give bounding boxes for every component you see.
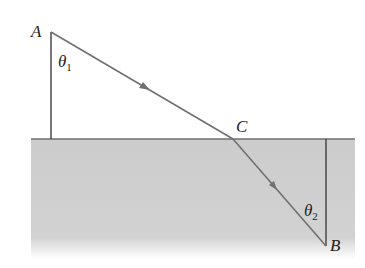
label-point-a: A xyxy=(30,22,42,41)
label-theta1: θ1 xyxy=(58,52,72,73)
label-point-c: C xyxy=(236,117,248,136)
incident-arrow-icon xyxy=(139,82,150,90)
lower-medium xyxy=(31,139,355,259)
refraction-diagram: A C B θ1 θ2 xyxy=(0,0,365,268)
label-point-b: B xyxy=(330,236,341,255)
